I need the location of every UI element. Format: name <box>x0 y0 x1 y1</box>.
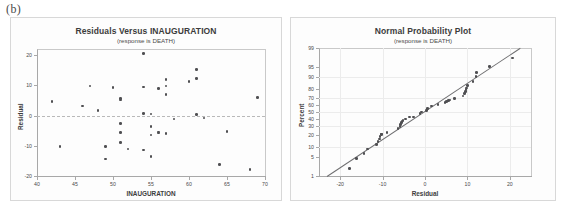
normal-plot-y-tick-label: 10 <box>297 144 314 150</box>
normal-plot-x-tick <box>383 177 384 180</box>
normal-plot-title: Normal Probability Plot <box>291 26 555 36</box>
residual-data-point <box>150 155 153 158</box>
normal-plot-gridline-horizontal <box>319 112 531 113</box>
residual-data-point <box>97 109 100 112</box>
normal-plot-x-tick-label: -20 <box>328 181 352 187</box>
normal-plot-y-tick <box>316 119 319 120</box>
residual-plot-y-tick-label: -10 <box>13 143 32 149</box>
normal-plot-y-tick <box>316 176 319 177</box>
normal-plot-subtitle: (response is DEATH) <box>291 37 555 44</box>
residual-plot-x-tick <box>37 177 38 180</box>
residual-data-point <box>188 80 191 83</box>
residual-plot-x-tick-label: 45 <box>63 181 87 187</box>
normal-plot-data-point <box>453 97 456 100</box>
normal-plot-y-tick-label: 40 <box>297 116 314 122</box>
residual-data-point <box>119 141 122 144</box>
residual-plot-y-tick <box>34 85 37 86</box>
residual-plot-x-tick <box>189 177 190 180</box>
normal-plot-y-tick <box>316 157 319 158</box>
normal-plot-y-tick-label: 50 <box>297 109 314 115</box>
residual-data-point <box>142 52 145 55</box>
normal-plot-gridline-horizontal <box>319 77 531 78</box>
normal-plot-y-tick <box>316 67 319 68</box>
normal-plot-y-tick-label: 99 <box>297 45 314 51</box>
residual-plot-y-tick <box>34 55 37 56</box>
residual-plot-x-tick-label: 60 <box>177 181 201 187</box>
residual-plot-x-tick <box>75 177 76 180</box>
residual-data-point <box>195 68 198 71</box>
normal-plot-y-tick-label: 30 <box>297 123 314 129</box>
residual-plot-x-tick-label: 40 <box>25 181 49 187</box>
normal-plot-data-point <box>355 157 358 160</box>
residual-plot-x-tick <box>151 177 152 180</box>
normal-plot-y-tick-label: 70 <box>297 95 314 101</box>
normal-plot-y-tick <box>316 105 319 106</box>
residual-plot-x-tick <box>113 177 114 180</box>
residual-plot-y-tick <box>34 176 37 177</box>
normal-plot-data-point <box>426 107 429 110</box>
normal-plot-y-tick-label: 95 <box>297 64 314 70</box>
residual-data-point <box>157 87 160 90</box>
normal-plot-y-tick-label: 90 <box>297 74 314 80</box>
residual-plot-x-tick <box>265 177 266 180</box>
normal-plot-x-tick <box>425 177 426 180</box>
residual-plot-x-tick-label: 50 <box>101 181 125 187</box>
normal-plot-x-tick-label: -10 <box>371 181 395 187</box>
residual-data-point <box>195 113 198 116</box>
normal-plot-y-tick <box>316 126 319 127</box>
residual-plot-y-tick-label: 0 <box>13 113 32 119</box>
normal-plot-gridline-horizontal <box>319 98 531 99</box>
residual-data-point <box>142 86 145 89</box>
normal-plot-x-tick-label: 10 <box>455 181 479 187</box>
normal-plot-y-tick <box>316 135 319 136</box>
normal-plot-x-tick-label: 20 <box>498 181 522 187</box>
residual-plot-x-tick-label: 55 <box>139 181 163 187</box>
normal-plot-y-tick-label: 60 <box>297 102 314 108</box>
residual-data-point <box>256 96 259 99</box>
normal-plot-data-point <box>412 116 415 119</box>
normal-plot-data-point <box>488 65 491 68</box>
normal-plot-data-point <box>466 84 469 87</box>
normal-probability-plot-panel: Normal Probability Plot (response is DEA… <box>290 17 556 201</box>
normal-plot-data-point <box>348 167 351 170</box>
residual-data-point <box>195 77 198 80</box>
normal-plot-y-tick <box>316 89 319 90</box>
figure-label: (b) <box>6 2 21 17</box>
residual-plot-panel: Residuals Versus INAUGURATION (response … <box>10 17 282 201</box>
residual-data-point <box>119 122 122 125</box>
normal-plot-x-tick-label: 0 <box>413 181 437 187</box>
normal-plot-data-point <box>472 80 475 83</box>
normal-plot-y-tick <box>316 112 319 113</box>
residual-plot-y-tick <box>34 116 37 117</box>
normal-plot-gridline-horizontal <box>319 147 531 148</box>
normal-plot-y-tick <box>316 147 319 148</box>
residual-plot-zero-reference-line <box>37 116 265 117</box>
residual-data-point <box>104 145 107 148</box>
residual-data-point <box>218 163 221 166</box>
normal-plot-y-tick-label: 20 <box>297 132 314 138</box>
normal-plot-x-tick <box>340 177 341 180</box>
normal-plot-data-point <box>475 71 478 74</box>
residual-data-point <box>226 130 229 133</box>
residual-plot-y-tick-label: 10 <box>13 82 32 88</box>
normal-plot-gridline-horizontal <box>319 126 531 127</box>
residual-data-point <box>119 131 122 134</box>
normal-plot-x-tick <box>510 177 511 180</box>
normal-plot-y-tick <box>316 98 319 99</box>
residual-plot-x-axis-title: INAUGURATION <box>119 190 183 197</box>
residual-plot-x-tick <box>227 177 228 180</box>
normal-plot-y-tick-label: 5 <box>297 154 314 160</box>
residual-plot-y-tick-label: -20 <box>13 173 32 179</box>
normal-plot-x-tick <box>467 177 468 180</box>
normal-plot-y-tick-label: 1 <box>297 173 314 179</box>
residual-data-point <box>142 112 145 115</box>
residual-data-point <box>59 145 62 148</box>
residual-plot-y-tick-label: 20 <box>13 52 32 58</box>
normal-plot-y-tick <box>316 77 319 78</box>
residual-plot-subtitle: (response is DEATH) <box>11 37 281 44</box>
normal-plot-data-point <box>463 92 466 95</box>
residual-plot-title: Residuals Versus INAUGURATION <box>11 26 281 36</box>
residual-plot-x-tick-label: 70 <box>253 181 277 187</box>
residual-plot-right-frame <box>265 49 266 176</box>
normal-plot-right-frame <box>531 48 532 176</box>
